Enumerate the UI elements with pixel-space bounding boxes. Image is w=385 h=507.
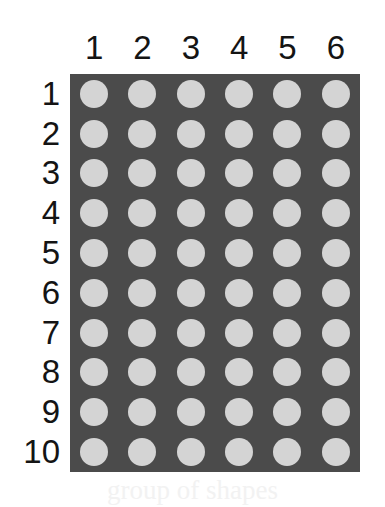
dot-cell-r3-c2[interactable] — [118, 159, 166, 187]
dot-marker — [128, 358, 156, 386]
dot-marker — [128, 279, 156, 307]
dot-cell-r2-c4[interactable] — [215, 120, 263, 148]
dot-cell-r2-c1[interactable] — [70, 120, 118, 148]
dot-cell-r5-c6[interactable] — [312, 239, 360, 267]
column-header-1: 1 — [70, 30, 118, 66]
dot-cell-r6-c3[interactable] — [167, 279, 215, 307]
dot-cell-r3-c1[interactable] — [70, 159, 118, 187]
dot-cell-r8-c2[interactable] — [118, 358, 166, 386]
dot-marker — [80, 398, 108, 426]
row-label-1: 1 — [0, 74, 64, 114]
dot-marker — [128, 239, 156, 267]
dot-cell-r8-c1[interactable] — [70, 358, 118, 386]
dot-row — [70, 353, 360, 393]
dot-cell-r2-c2[interactable] — [118, 120, 166, 148]
dot-marker — [80, 358, 108, 386]
dot-cell-r9-c5[interactable] — [263, 398, 311, 426]
dot-cell-r5-c5[interactable] — [263, 239, 311, 267]
dot-marker — [322, 398, 350, 426]
dot-cell-r10-c5[interactable] — [263, 438, 311, 466]
dot-row — [70, 114, 360, 154]
dot-cell-r7-c4[interactable] — [215, 319, 263, 347]
dot-marker — [177, 398, 205, 426]
dot-cell-r1-c1[interactable] — [70, 80, 118, 108]
dot-marker — [273, 398, 301, 426]
dot-marker — [177, 199, 205, 227]
row-label-9: 9 — [0, 392, 64, 432]
column-header-2: 2 — [118, 30, 166, 66]
dot-cell-r4-c2[interactable] — [118, 199, 166, 227]
dot-cell-r7-c2[interactable] — [118, 319, 166, 347]
dot-cell-r3-c5[interactable] — [263, 159, 311, 187]
dot-marker — [80, 319, 108, 347]
dot-cell-r9-c4[interactable] — [215, 398, 263, 426]
dot-cell-r7-c5[interactable] — [263, 319, 311, 347]
dot-marker — [128, 199, 156, 227]
dot-marker — [177, 279, 205, 307]
dot-cell-r8-c3[interactable] — [167, 358, 215, 386]
dot-cell-r1-c2[interactable] — [118, 80, 166, 108]
dot-cell-r3-c6[interactable] — [312, 159, 360, 187]
dot-marker — [225, 319, 253, 347]
dot-cell-r6-c1[interactable] — [70, 279, 118, 307]
dot-marker — [322, 159, 350, 187]
dot-marker — [273, 159, 301, 187]
row-label-2: 2 — [0, 114, 64, 154]
dot-cell-r5-c4[interactable] — [215, 239, 263, 267]
dot-marker — [322, 120, 350, 148]
row-label-3: 3 — [0, 154, 64, 194]
dot-cell-r5-c2[interactable] — [118, 239, 166, 267]
dot-cell-r6-c6[interactable] — [312, 279, 360, 307]
dot-cell-r7-c3[interactable] — [167, 319, 215, 347]
dot-cell-r3-c4[interactable] — [215, 159, 263, 187]
dot-cell-r4-c5[interactable] — [263, 199, 311, 227]
dot-cell-r6-c4[interactable] — [215, 279, 263, 307]
dot-marker — [273, 199, 301, 227]
column-header-5: 5 — [263, 30, 311, 66]
dot-marker — [80, 279, 108, 307]
dot-cell-r4-c6[interactable] — [312, 199, 360, 227]
dot-cell-r4-c1[interactable] — [70, 199, 118, 227]
dot-cell-r10-c6[interactable] — [312, 438, 360, 466]
dot-cell-r1-c5[interactable] — [263, 80, 311, 108]
scan-bleed-artifact: group of shapes — [0, 474, 385, 507]
dot-marker — [177, 239, 205, 267]
dot-cell-r4-c4[interactable] — [215, 199, 263, 227]
dot-marker — [273, 279, 301, 307]
dot-cell-r1-c4[interactable] — [215, 80, 263, 108]
dot-cell-r2-c3[interactable] — [167, 120, 215, 148]
dot-marker — [128, 438, 156, 466]
dot-cell-r1-c3[interactable] — [167, 80, 215, 108]
dot-cell-r9-c2[interactable] — [118, 398, 166, 426]
dot-cell-r8-c6[interactable] — [312, 358, 360, 386]
row-label-7: 7 — [0, 313, 64, 353]
dot-cell-r6-c5[interactable] — [263, 279, 311, 307]
dot-cell-r2-c5[interactable] — [263, 120, 311, 148]
dot-cell-r5-c1[interactable] — [70, 239, 118, 267]
dot-marker — [80, 438, 108, 466]
dot-cell-r9-c1[interactable] — [70, 398, 118, 426]
dot-cell-r5-c3[interactable] — [167, 239, 215, 267]
dot-row — [70, 313, 360, 353]
dot-cell-r10-c4[interactable] — [215, 438, 263, 466]
dot-cell-r7-c6[interactable] — [312, 319, 360, 347]
dot-cell-r9-c3[interactable] — [167, 398, 215, 426]
dot-cell-r8-c5[interactable] — [263, 358, 311, 386]
dot-cell-r4-c3[interactable] — [167, 199, 215, 227]
dot-cell-r3-c3[interactable] — [167, 159, 215, 187]
dot-cell-r2-c6[interactable] — [312, 120, 360, 148]
row-label-8: 8 — [0, 353, 64, 393]
dot-cell-r9-c6[interactable] — [312, 398, 360, 426]
dot-cell-r10-c2[interactable] — [118, 438, 166, 466]
dot-cell-r8-c4[interactable] — [215, 358, 263, 386]
dot-panel — [70, 74, 360, 472]
dot-marker — [273, 239, 301, 267]
dot-marker — [273, 80, 301, 108]
dot-cell-r10-c1[interactable] — [70, 438, 118, 466]
dot-cell-r10-c3[interactable] — [167, 438, 215, 466]
dot-marker — [322, 438, 350, 466]
dot-cell-r1-c6[interactable] — [312, 80, 360, 108]
dot-marker — [225, 398, 253, 426]
dot-cell-r7-c1[interactable] — [70, 319, 118, 347]
dot-cell-r6-c2[interactable] — [118, 279, 166, 307]
